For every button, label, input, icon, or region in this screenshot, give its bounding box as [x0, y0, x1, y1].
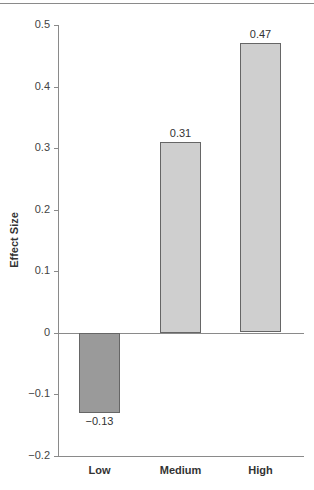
bar-value-label: −0.13 [70, 415, 130, 427]
y-tick-label: 0.2 [6, 203, 50, 215]
y-tick-label: 0 [6, 326, 50, 338]
top-border [0, 3, 314, 4]
bar-value-label: 0.47 [231, 28, 291, 40]
x-category-label: High [221, 464, 301, 476]
y-tick [54, 25, 58, 26]
y-tick-label: −0.1 [6, 387, 50, 399]
y-tick [54, 210, 58, 211]
y-tick [54, 271, 58, 272]
bar-high [240, 43, 281, 332]
y-tick-label: 0.4 [6, 80, 50, 92]
x-axis [54, 456, 304, 457]
bar-medium [160, 142, 201, 333]
y-tick-label: 0.1 [6, 264, 50, 276]
x-category-label: Medium [141, 464, 221, 476]
y-tick [54, 456, 58, 457]
y-tick-label: 0.5 [6, 18, 50, 30]
y-tick-label: 0.3 [6, 141, 50, 153]
y-axis [58, 25, 59, 456]
y-tick [54, 148, 58, 149]
x-category-label: Low [60, 464, 140, 476]
bar-low [79, 333, 120, 413]
y-tick [54, 87, 58, 88]
y-tick-label: −0.2 [6, 449, 50, 461]
y-axis-label: Effect Size [8, 212, 20, 268]
y-tick [54, 394, 58, 395]
bar-value-label: 0.31 [151, 127, 211, 139]
